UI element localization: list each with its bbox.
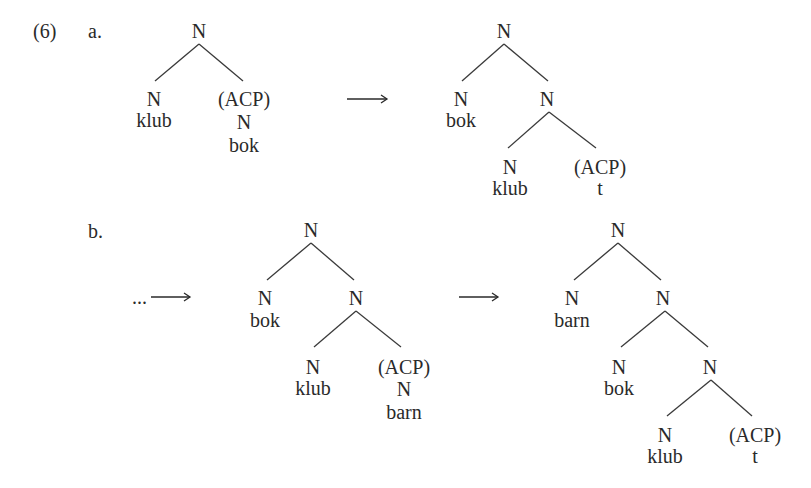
edge <box>574 243 618 280</box>
node-rl-word: bok <box>604 377 634 399</box>
node-left-word: bok <box>250 309 280 331</box>
arrow-b1-icon <box>151 293 190 301</box>
node-root: N <box>497 20 511 42</box>
edge <box>267 243 311 280</box>
part-a-label: a. <box>88 20 102 42</box>
node-left-word: bok <box>446 109 476 131</box>
node-right-sub: N <box>237 111 251 133</box>
node-left-word: klub <box>136 109 172 131</box>
edge <box>667 380 711 416</box>
node-left-word: barn <box>554 309 590 331</box>
node-rl-word: klub <box>295 377 331 399</box>
node-rrr-cat: (ACP) <box>729 424 781 447</box>
example-number: (6) <box>33 20 56 43</box>
node-right-cat: (ACP) <box>218 88 270 111</box>
ellipsis: ... <box>132 286 147 308</box>
node-root: N <box>611 219 625 241</box>
node-root: N <box>192 20 206 42</box>
tree-b1: N N bok N N klub (ACP) N barn <box>250 219 430 423</box>
edge <box>549 112 596 148</box>
edge <box>356 311 401 347</box>
edge <box>314 311 356 347</box>
node-rl-cat: N <box>612 356 626 378</box>
node-left-cat: N <box>147 88 161 110</box>
node-rr-cat: (ACP) <box>378 356 430 379</box>
edge <box>504 44 548 81</box>
edge <box>462 44 504 81</box>
node-rrr-word: t <box>752 445 758 467</box>
edge <box>199 44 243 81</box>
node-right-word: bok <box>229 134 259 156</box>
node-left-cat: N <box>258 287 272 309</box>
node-right-cat: N <box>349 287 363 309</box>
node-rr-cat: (ACP) <box>574 156 626 179</box>
edge <box>711 380 752 416</box>
node-rr-word: barn <box>386 401 422 423</box>
edge <box>618 243 661 280</box>
edge <box>621 311 665 347</box>
node-left-cat: N <box>565 287 579 309</box>
node-rl-cat: N <box>306 356 320 378</box>
node-right-cat: N <box>540 88 554 110</box>
tree-a2: N N bok N N klub (ACP) t <box>446 20 626 199</box>
arrow-b2-icon <box>459 293 498 301</box>
node-rl-cat: N <box>503 156 517 178</box>
tree-b2: N N barn N N bok N N klub (ACP) t <box>554 219 781 467</box>
part-b-label: b. <box>88 220 103 242</box>
node-root: N <box>304 219 318 241</box>
node-rl-word: klub <box>492 177 528 199</box>
edge <box>665 311 708 347</box>
syntax-tree-diagram: (6) a. b. N N klub (ACP) N bok N N bok N… <box>0 0 811 488</box>
tree-a1: N N klub (ACP) N bok <box>136 20 270 156</box>
node-left-cat: N <box>454 88 468 110</box>
node-rrl-word: klub <box>647 445 683 467</box>
node-rr-word: t <box>597 177 603 199</box>
node-rr-cat: N <box>703 356 717 378</box>
edge <box>311 243 354 280</box>
node-rrl-cat: N <box>658 424 672 446</box>
node-rr-sub: N <box>397 378 411 400</box>
arrow-a-icon <box>347 95 387 103</box>
edge <box>508 112 549 148</box>
edge <box>155 44 199 81</box>
node-right-cat: N <box>656 287 670 309</box>
